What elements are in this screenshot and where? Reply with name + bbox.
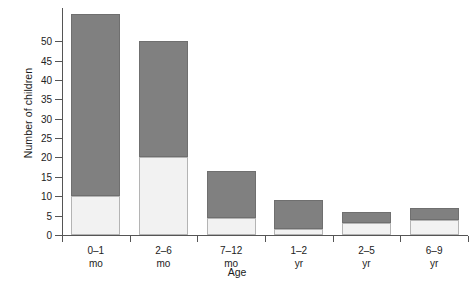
y-axis-line bbox=[62, 8, 63, 236]
category-unit: yr bbox=[265, 257, 333, 270]
bar-1 bbox=[71, 14, 120, 235]
y-tick-label: 15 bbox=[41, 171, 52, 182]
category-unit: mo bbox=[197, 257, 265, 270]
y-axis-title: Number of children bbox=[22, 43, 34, 183]
chart-figure: Number of children Age 05101520253035404… bbox=[0, 0, 474, 287]
y-tick-label: 25 bbox=[41, 133, 52, 144]
category-unit: mo bbox=[62, 257, 130, 270]
bar-2 bbox=[139, 41, 188, 235]
category-range: 2–6 bbox=[155, 245, 172, 256]
y-tick-label: 20 bbox=[41, 152, 52, 163]
bar-segment-upper bbox=[207, 171, 256, 218]
y-tick-label: 10 bbox=[41, 191, 52, 202]
category-label-3: 7–12mo bbox=[197, 244, 265, 270]
y-tick: 35 bbox=[55, 99, 62, 100]
category-unit: mo bbox=[130, 257, 198, 270]
y-tick: 5 bbox=[55, 216, 62, 217]
bar-segment-upper bbox=[410, 208, 459, 220]
category-label-6: 6–9yr bbox=[400, 244, 468, 270]
x-tick bbox=[468, 236, 469, 242]
x-tick bbox=[265, 236, 266, 242]
y-tick-label: 30 bbox=[41, 113, 52, 124]
category-label-1: 0–1mo bbox=[62, 244, 130, 270]
bar-segment-upper bbox=[71, 14, 120, 196]
y-tick-label: 0 bbox=[46, 230, 52, 241]
y-tick: 15 bbox=[55, 177, 62, 178]
category-label-5: 2–5yr bbox=[333, 244, 401, 270]
category-label-2: 2–6mo bbox=[130, 244, 198, 270]
y-tick-label: 35 bbox=[41, 94, 52, 105]
y-tick: 20 bbox=[55, 157, 62, 158]
category-range: 2–5 bbox=[358, 245, 375, 256]
bar-segment-upper bbox=[139, 41, 188, 157]
category-range: 6–9 bbox=[426, 245, 443, 256]
bar-segment-upper bbox=[274, 200, 323, 229]
category-label-4: 1–2yr bbox=[265, 244, 333, 270]
y-tick: 45 bbox=[55, 61, 62, 62]
bar-segment-lower bbox=[207, 218, 256, 235]
bar-3 bbox=[207, 171, 256, 235]
x-tick bbox=[62, 236, 63, 242]
y-tick-label: 40 bbox=[41, 74, 52, 85]
category-range: 7–12 bbox=[220, 245, 242, 256]
bar-segment-lower bbox=[410, 220, 459, 236]
y-tick: 50 bbox=[55, 41, 62, 42]
x-tick bbox=[130, 236, 131, 242]
y-tick-label: 50 bbox=[41, 36, 52, 47]
y-tick: 25 bbox=[55, 138, 62, 139]
y-tick: 10 bbox=[55, 196, 62, 197]
y-tick-label: 5 bbox=[46, 210, 52, 221]
x-tick bbox=[197, 236, 198, 242]
x-tick bbox=[333, 236, 334, 242]
x-tick bbox=[400, 236, 401, 242]
bar-4 bbox=[274, 200, 323, 235]
y-tick: 40 bbox=[55, 80, 62, 81]
bar-segment-lower bbox=[71, 196, 120, 235]
y-tick: 0 bbox=[55, 235, 62, 236]
bar-6 bbox=[410, 208, 459, 235]
bar-segment-upper bbox=[342, 212, 391, 224]
bar-segment-lower bbox=[342, 223, 391, 235]
y-tick-label: 45 bbox=[41, 55, 52, 66]
plot-area: 05101520253035404550 bbox=[62, 8, 468, 236]
category-unit: yr bbox=[400, 257, 468, 270]
category-range: 0–1 bbox=[87, 245, 104, 256]
category-range: 1–2 bbox=[290, 245, 307, 256]
y-tick: 30 bbox=[55, 119, 62, 120]
category-unit: yr bbox=[333, 257, 401, 270]
x-axis-line bbox=[55, 235, 468, 236]
bar-segment-lower bbox=[139, 157, 188, 235]
bar-5 bbox=[342, 212, 391, 235]
bar-segment-lower bbox=[274, 229, 323, 235]
